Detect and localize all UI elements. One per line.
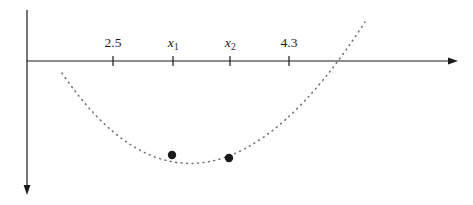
tick-label-2: x1	[168, 36, 179, 50]
point-x2	[225, 154, 233, 162]
x-axis-arrowhead-icon	[448, 58, 458, 65]
parabola-number-line-figure: 2.5x1x24.3	[0, 0, 473, 205]
tick-label-3: x2	[225, 36, 236, 50]
tick-label-1: 2.5	[105, 36, 122, 50]
figure-canvas	[0, 0, 473, 205]
tick-label-subscript: 2	[231, 42, 236, 52]
point-x1	[168, 151, 176, 159]
tick-label-subscript: 1	[174, 42, 179, 52]
data-points	[168, 151, 233, 162]
tick-label-4: 4.3	[281, 36, 298, 50]
y-axis-arrowhead-icon	[24, 185, 31, 195]
